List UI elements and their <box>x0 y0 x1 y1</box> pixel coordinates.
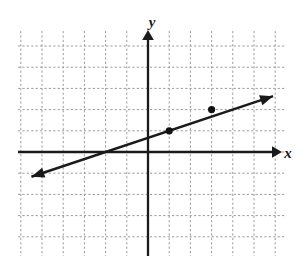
coordinate-plane-graph: x y <box>0 0 308 270</box>
graph-figure: x y <box>0 0 308 270</box>
data-point <box>208 106 215 113</box>
x-axis-label: x <box>283 145 292 161</box>
data-point <box>166 127 173 134</box>
y-axis-label: y <box>147 14 156 30</box>
